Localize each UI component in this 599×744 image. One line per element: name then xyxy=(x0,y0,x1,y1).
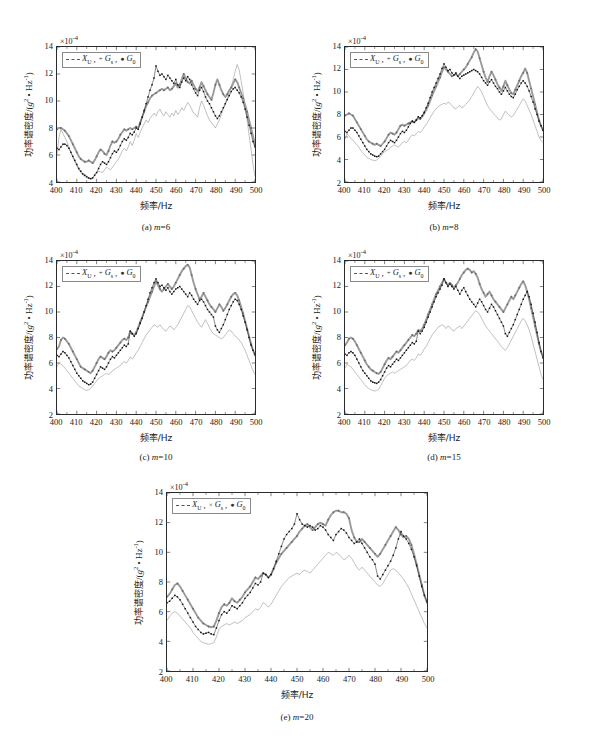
series-marker-gs xyxy=(317,523,319,525)
plot-area-e xyxy=(166,492,428,672)
x-tick-label: 400 xyxy=(153,675,179,684)
series-marker-gs xyxy=(239,599,241,601)
panel-caption-e: (e) m=20 xyxy=(126,712,468,722)
y-tick-label: 4 xyxy=(141,638,163,647)
series-marker-g0 xyxy=(247,595,248,596)
series-marker-g0 xyxy=(190,617,191,618)
series-marker-gs xyxy=(405,535,407,537)
series-marker-gs xyxy=(353,537,355,539)
y-axis-label-text: 功率谱密度 xyxy=(134,580,144,625)
series-marker-g0 xyxy=(403,535,404,536)
series-marker-gs xyxy=(249,586,251,588)
series-marker-g0 xyxy=(288,531,289,532)
series-marker-gs xyxy=(234,600,236,602)
dashed-line-icon xyxy=(176,505,190,507)
series-marker-g0 xyxy=(252,587,253,588)
series-marker-g0 xyxy=(167,602,168,603)
series-marker-g0 xyxy=(366,552,367,553)
series-marker-gs xyxy=(218,612,220,614)
series-marker-g0 xyxy=(333,540,334,541)
series-marker-gs xyxy=(327,519,329,521)
series-marker-g0 xyxy=(236,608,237,609)
y-axis-label-e: 功率谱密度/(g2 • Hz-1) xyxy=(132,540,145,625)
series-marker-g0 xyxy=(234,606,235,607)
series-marker-g0 xyxy=(322,526,323,527)
series-marker-g0 xyxy=(400,531,401,532)
series-marker-g0 xyxy=(257,584,258,585)
series-marker-gs xyxy=(223,603,225,605)
series-marker-gs xyxy=(332,511,334,513)
series-marker-g0 xyxy=(221,614,222,615)
legend-separator: , xyxy=(225,501,227,510)
chart-panel-e: ×10-424681012144004104204304404504604704… xyxy=(0,0,599,744)
series-marker-gs xyxy=(187,599,189,601)
series-marker-gs xyxy=(291,541,293,543)
series-marker-g0 xyxy=(239,605,240,606)
series-marker-g0 xyxy=(359,538,360,539)
series-marker-g0 xyxy=(421,586,422,587)
series-marker-g0 xyxy=(340,528,341,529)
series-marker-g0 xyxy=(208,632,209,633)
series-marker-g0 xyxy=(260,581,261,582)
series-marker-g0 xyxy=(372,559,373,560)
series-marker-g0 xyxy=(200,632,201,633)
caption-value: =20 xyxy=(299,712,313,722)
series-marker-g0 xyxy=(184,608,185,609)
series-marker-g0 xyxy=(377,575,378,576)
legend-label-g0: G0 xyxy=(236,500,245,511)
series-marker-g0 xyxy=(210,633,211,634)
series-marker-g0 xyxy=(314,529,315,530)
series-marker-gs xyxy=(338,510,340,512)
series-marker-g0 xyxy=(187,612,188,613)
series-marker-gs xyxy=(260,575,262,577)
series-marker-g0 xyxy=(392,555,393,556)
series-marker-g0 xyxy=(244,598,245,599)
series-marker-gs xyxy=(390,535,392,537)
series-marker-g0 xyxy=(265,574,266,575)
series-marker-g0 xyxy=(192,621,193,622)
series-marker-gs xyxy=(384,544,386,546)
series-marker-gs xyxy=(280,553,282,555)
exponent-power: -4 xyxy=(183,480,188,487)
series-marker-g0 xyxy=(395,547,396,548)
series-marker-g0 xyxy=(426,601,427,602)
series-marker-g0 xyxy=(379,578,380,579)
series-marker-gs xyxy=(379,553,381,555)
legend-e[interactable]: XU,×Gs,●G0 xyxy=(172,498,251,514)
series-marker-g0 xyxy=(351,540,352,541)
series-marker-g0 xyxy=(182,604,183,605)
series-marker-g0 xyxy=(356,541,357,542)
series-marker-g0 xyxy=(223,611,224,612)
series-marker-gs xyxy=(306,523,308,525)
series-marker-g0 xyxy=(218,620,219,621)
x-tick-label: 460 xyxy=(310,675,336,684)
series-marker-gs xyxy=(182,590,184,592)
caption-prefix: (e) xyxy=(281,712,291,722)
series-marker-gs xyxy=(364,541,366,543)
series-marker-g0 xyxy=(413,556,414,557)
series-marker-gs xyxy=(171,588,173,590)
series-marker-g0 xyxy=(348,537,349,538)
dot-marker-icon: ● xyxy=(230,502,234,509)
series-marker-g0 xyxy=(275,560,276,561)
series-marker-gs xyxy=(192,608,194,610)
series-marker-gs xyxy=(358,541,360,543)
y-axis-label-unit: /(g2 • Hz-1) xyxy=(134,540,144,580)
y-tick-label: 12 xyxy=(141,518,163,527)
series-marker-g0 xyxy=(408,543,409,544)
series-marker-gs xyxy=(213,626,215,628)
legend-separator: , xyxy=(204,501,206,510)
series-marker-gs xyxy=(208,626,210,628)
series-marker-g0 xyxy=(320,525,321,526)
series-marker-g0 xyxy=(283,538,284,539)
series-marker-g0 xyxy=(343,529,344,530)
series-marker-g0 xyxy=(294,523,295,524)
series-marker-g0 xyxy=(309,525,310,526)
series-marker-gs xyxy=(197,617,199,619)
series-marker-g0 xyxy=(387,565,388,566)
series-marker-gs xyxy=(348,517,350,519)
y-axis-exponent-e: ×10-4 xyxy=(170,481,188,492)
series-marker-g0 xyxy=(374,563,375,564)
series-marker-g0 xyxy=(418,575,419,576)
series-marker-gs xyxy=(296,535,298,537)
